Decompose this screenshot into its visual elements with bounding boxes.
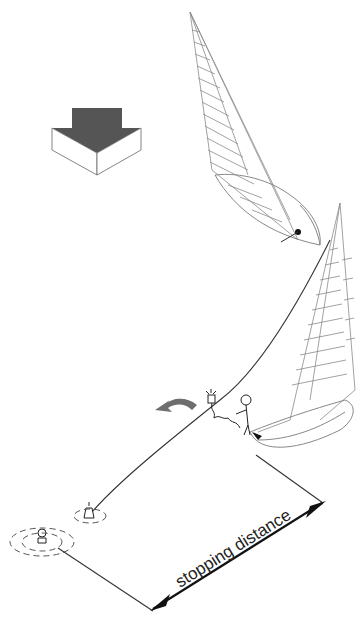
sailboat-lower [250, 203, 355, 447]
buoy-in-water-icon [74, 502, 106, 523]
crew-member-icon [236, 395, 251, 435]
measure-guide-right [256, 455, 323, 503]
turn-arrow-icon [155, 399, 197, 412]
lifebuoy-light-icon [206, 389, 240, 428]
man-overboard-diagram: stopping distance [0, 0, 360, 623]
sailboat-upper [190, 12, 320, 245]
measure-guide-left [58, 548, 153, 611]
tether-line [92, 240, 330, 512]
stopping-distance-label: stopping distance [172, 505, 294, 591]
wind-arrow-icon [52, 108, 141, 175]
